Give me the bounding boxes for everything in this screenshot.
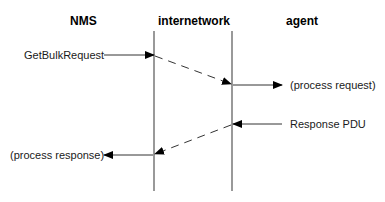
label-process-response: (process response) — [10, 149, 104, 161]
sequence-diagram — [0, 0, 385, 202]
label-response-pdu: Response PDU — [290, 118, 366, 130]
dashed-request — [155, 56, 231, 84]
dashed-response — [155, 125, 231, 154]
label-process-request: (process request) — [290, 79, 376, 91]
label-get-bulk-request: GetBulkRequest — [24, 49, 104, 61]
